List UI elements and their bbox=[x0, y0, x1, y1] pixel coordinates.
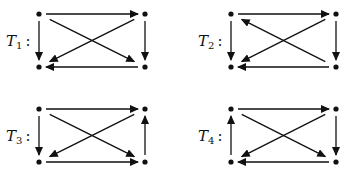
vertex-d bbox=[333, 159, 338, 164]
vertex-a bbox=[36, 11, 41, 16]
tournament-label: T1: bbox=[6, 32, 30, 51]
vertex-a bbox=[36, 106, 41, 111]
vertex-c bbox=[228, 64, 233, 69]
vertex-b bbox=[333, 106, 338, 111]
vertex-c bbox=[36, 159, 41, 164]
vertex-b bbox=[142, 11, 147, 16]
vertex-a bbox=[228, 11, 233, 16]
tournament-t2: T2: bbox=[198, 11, 339, 69]
vertex-d bbox=[333, 64, 338, 69]
tournament-diagrams: T1: T2: T3: T4: bbox=[0, 0, 348, 174]
vertex-a bbox=[228, 106, 233, 111]
vertex-c bbox=[228, 159, 233, 164]
tournament-label: T2: bbox=[198, 32, 222, 51]
tournament-t1: T1: bbox=[6, 11, 148, 69]
vertex-d bbox=[142, 159, 147, 164]
tournament-t4: T4: bbox=[198, 106, 339, 164]
tournament-t3: T3: bbox=[6, 106, 148, 164]
vertex-d bbox=[142, 64, 147, 69]
vertex-b bbox=[333, 11, 338, 16]
vertex-c bbox=[36, 64, 41, 69]
tournament-label: T3: bbox=[6, 127, 30, 146]
tournament-label: T4: bbox=[198, 127, 222, 146]
vertex-b bbox=[142, 106, 147, 111]
